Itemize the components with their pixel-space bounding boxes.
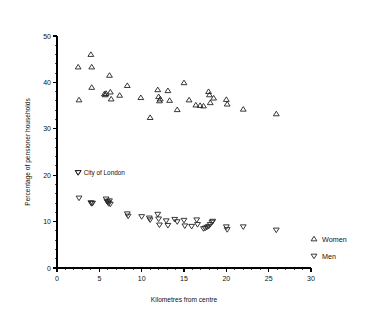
data-point [189,224,195,229]
legend-marker-women [311,236,317,241]
data-point [76,97,82,102]
data-point [240,225,246,230]
y-tick-label: 20 [43,172,51,179]
x-tick-label: 0 [55,275,59,282]
data-point [224,101,230,106]
data-point [138,95,144,100]
y-tick-label: 30 [43,125,51,132]
data-point [174,107,180,112]
data-point [194,218,200,223]
legend: WomenMen [311,235,347,261]
legend-label-men: Men [322,252,336,261]
y-axis-title: Percentage of pensioner households [24,98,32,206]
data-point [165,223,171,228]
data-point [240,107,246,112]
data-point [75,64,81,69]
data-point [181,80,187,85]
x-tick-label: 15 [180,275,188,282]
axis-titles: Kilometres from centrePercentage of pens… [24,98,217,303]
data-point [223,225,229,230]
data-point [165,88,171,93]
y-tick-label: 40 [43,79,51,86]
data-point [147,115,153,120]
data-point [155,212,161,217]
data-point [76,196,82,201]
series-men [75,171,279,233]
plot-area: 01020304050051015202530 City of London W… [0,0,381,329]
data-point [273,111,279,116]
data-point [223,97,229,102]
data-point [163,219,169,224]
annotation-label: City of London [84,169,126,177]
data-point [182,224,188,229]
x-axis-title: Kilometres from centre [151,296,218,303]
axes [57,36,311,268]
data-point [181,218,187,223]
data-point [167,98,173,103]
data-point [89,64,95,69]
scatter-chart: 01020304050051015202530 City of London W… [0,0,381,329]
data-point [186,97,192,102]
data-point [157,223,163,228]
series-women [75,52,279,120]
annotations: City of London [75,169,125,177]
data-point [89,85,95,90]
annotation-marker [75,171,81,176]
y-tick-label: 0 [47,265,51,272]
data-point [195,223,201,228]
data-point [207,100,213,105]
data-point [108,96,114,101]
x-tick-label: 5 [97,275,101,282]
data-point [88,52,94,57]
y-tick-label: 10 [43,218,51,225]
data-point [124,83,130,88]
data-point [155,87,161,92]
data-point [117,93,123,98]
legend-label-women: Women [322,235,347,244]
tick-marks [53,36,311,272]
x-tick-label: 25 [265,275,273,282]
tick-labels: 01020304050051015202530 [43,33,315,282]
legend-marker-men [311,254,317,259]
data-point [107,89,113,94]
data-point [107,73,113,78]
y-tick-label: 50 [43,33,51,40]
x-tick-label: 30 [307,275,315,282]
x-tick-label: 20 [222,275,230,282]
data-point [273,228,279,233]
data-point [156,217,162,222]
x-tick-label: 10 [138,275,146,282]
data-point [139,215,145,220]
data-points [75,52,279,233]
